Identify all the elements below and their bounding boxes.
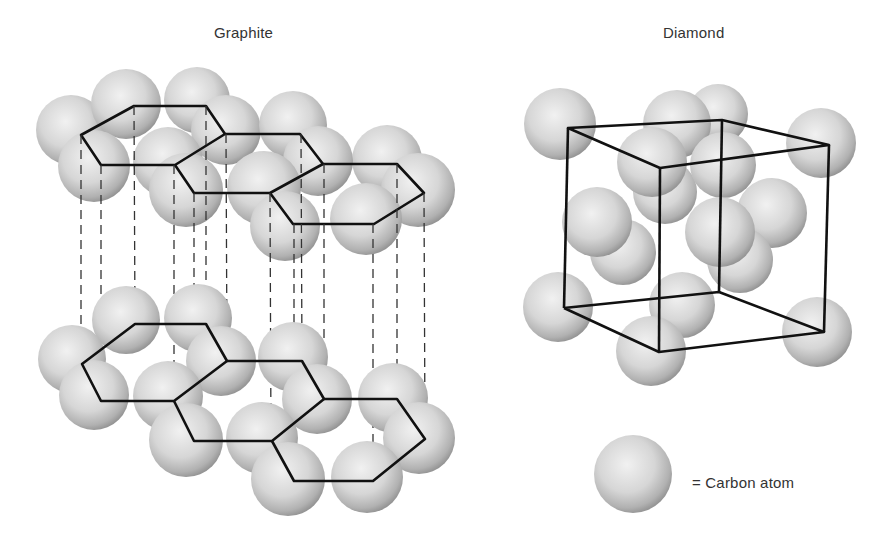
legend-carbon-atom-icon — [594, 435, 672, 513]
legend-label: = Carbon atom — [692, 474, 794, 491]
crystal-structure-figure — [0, 0, 889, 543]
graphite-title: Graphite — [214, 24, 273, 41]
diamond-title: Diamond — [663, 24, 724, 41]
